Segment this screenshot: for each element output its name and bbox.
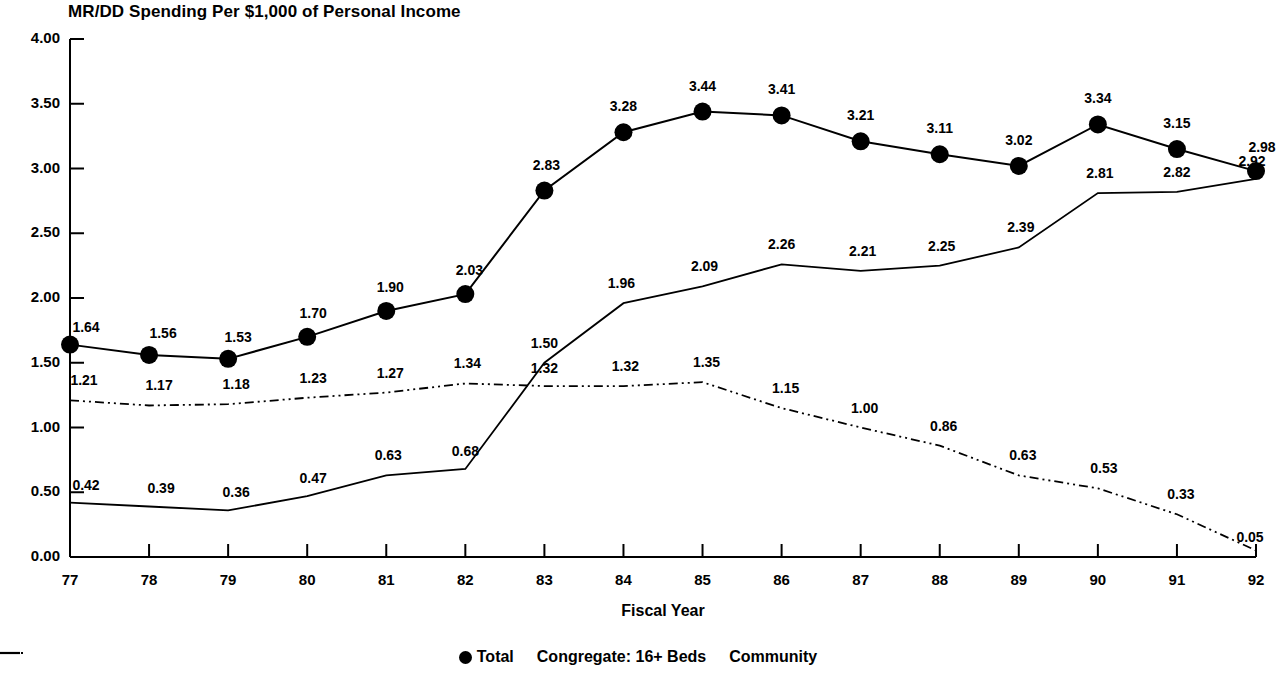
data-point-label: 1.56 xyxy=(141,325,185,341)
y-axis-tick-label: 3.00 xyxy=(2,159,60,176)
data-point-label: 2.25 xyxy=(920,238,964,254)
data-point-marker xyxy=(298,328,316,346)
data-point-label: 1.32 xyxy=(603,358,647,374)
data-point-marker xyxy=(456,285,474,303)
x-axis-tick-label: 77 xyxy=(50,571,90,588)
data-point-label: 0.42 xyxy=(64,477,108,493)
legend-item-label: Congregate: 16+ Beds xyxy=(537,648,706,666)
x-axis-tick-label: 81 xyxy=(366,571,406,588)
data-point-label: 3.11 xyxy=(918,120,962,136)
data-point-label: 2.82 xyxy=(1155,164,1199,180)
data-point-label: 0.33 xyxy=(1159,486,1203,502)
x-axis-tick-label: 84 xyxy=(603,571,643,588)
data-point-marker xyxy=(377,302,395,320)
data-point-label: 0.39 xyxy=(139,480,183,496)
data-point-label: 1.53 xyxy=(216,329,260,345)
data-point-label: 1.35 xyxy=(685,354,729,370)
x-axis-tick-label: 92 xyxy=(1236,571,1276,588)
data-point-marker xyxy=(773,106,791,124)
data-point-label: 0.86 xyxy=(922,418,966,434)
legend-item-community[interactable]: Community xyxy=(724,648,817,666)
data-point-label: 0.53 xyxy=(1082,460,1126,476)
data-point-label: 0.05 xyxy=(1228,529,1272,545)
data-point-label: 1.32 xyxy=(522,360,566,376)
x-axis-tick-label: 86 xyxy=(762,571,802,588)
y-axis-tick-label: 2.50 xyxy=(2,223,60,240)
data-point-label: 3.02 xyxy=(997,132,1041,148)
data-point-label: 1.15 xyxy=(764,380,808,396)
x-axis-tick-label: 90 xyxy=(1078,571,1118,588)
data-point-label: 3.15 xyxy=(1155,115,1199,131)
x-axis-tick-label: 79 xyxy=(208,571,248,588)
legend-item-label: Community xyxy=(729,648,817,666)
data-point-label: 1.34 xyxy=(445,355,489,371)
x-axis-tick-label: 78 xyxy=(129,571,169,588)
data-point-label: 2.21 xyxy=(841,243,885,259)
chart-legend: TotalCongregate: 16+ BedsCommunity xyxy=(0,648,1276,666)
legend-item-label: Total xyxy=(477,648,514,666)
data-point-label: 1.21 xyxy=(62,372,106,388)
data-point-label: 3.44 xyxy=(681,78,725,94)
data-point-marker xyxy=(535,182,553,200)
data-point-marker xyxy=(219,350,237,368)
x-axis-tick-label: 87 xyxy=(841,571,881,588)
data-point-label: 3.34 xyxy=(1076,90,1120,106)
data-point-label: 1.50 xyxy=(522,335,566,351)
chart-container: MR/DD Spending Per $1,000 of Personal In… xyxy=(0,0,1276,677)
x-axis-tick-label: 83 xyxy=(524,571,564,588)
data-point-label: 3.41 xyxy=(760,81,804,97)
x-axis-tick-label: 91 xyxy=(1157,571,1197,588)
data-point-label: 1.90 xyxy=(368,279,412,295)
y-axis-tick-label: 3.50 xyxy=(2,94,60,111)
data-point-label: 0.68 xyxy=(443,443,487,459)
data-point-label: 2.39 xyxy=(999,219,1043,235)
data-point-label: 2.83 xyxy=(524,157,568,173)
data-point-label: 0.63 xyxy=(1001,447,1045,463)
data-point-label: 0.63 xyxy=(366,447,410,463)
data-point-marker xyxy=(1168,140,1186,158)
data-point-label: 1.27 xyxy=(368,365,412,381)
data-point-marker xyxy=(694,103,712,121)
data-point-label: 2.09 xyxy=(683,258,727,274)
x-axis-tick-label: 89 xyxy=(999,571,1039,588)
legend-filled-circle-icon xyxy=(459,651,472,664)
data-point-label: 2.92 xyxy=(1230,153,1274,169)
data-point-label: 1.18 xyxy=(214,376,258,392)
data-point-label: 0.47 xyxy=(291,470,335,486)
series-line-total xyxy=(70,112,1256,359)
data-point-label: 1.17 xyxy=(137,377,181,393)
data-point-label: 1.64 xyxy=(64,319,108,335)
data-point-marker xyxy=(1010,157,1028,175)
y-axis-tick-label: 1.50 xyxy=(2,353,60,370)
y-axis-tick-label: 0.50 xyxy=(2,482,60,499)
data-point-label: 3.28 xyxy=(601,98,645,114)
y-axis-tick-label: 0.00 xyxy=(2,547,60,564)
data-point-marker xyxy=(1089,115,1107,133)
data-point-label: 0.36 xyxy=(214,484,258,500)
data-point-marker xyxy=(852,132,870,150)
data-point-marker xyxy=(614,123,632,141)
data-point-label: 2.81 xyxy=(1078,165,1122,181)
data-point-label: 1.23 xyxy=(291,370,335,386)
data-point-label: 1.96 xyxy=(599,275,643,291)
data-point-label: 1.70 xyxy=(291,305,335,321)
y-axis-tick-label: 1.00 xyxy=(2,418,60,435)
y-axis-tick-label: 4.00 xyxy=(2,29,60,46)
data-point-marker xyxy=(140,346,158,364)
x-axis-tick-label: 85 xyxy=(683,571,723,588)
legend-item-total[interactable]: Total xyxy=(459,648,514,666)
data-point-label: 2.26 xyxy=(760,236,804,252)
chart-axes xyxy=(70,39,1256,557)
data-point-label: 1.00 xyxy=(843,400,887,416)
x-axis-title: Fiscal Year xyxy=(50,602,1276,620)
y-axis-tick-label: 2.00 xyxy=(2,288,60,305)
series-line-congregate-16-beds xyxy=(70,382,1256,550)
x-axis-tick-label: 88 xyxy=(920,571,960,588)
x-axis-tick-label: 80 xyxy=(287,571,327,588)
data-point-label: 2.03 xyxy=(447,262,491,278)
data-point-label: 3.21 xyxy=(839,107,883,123)
legend-item-congregate-16-beds[interactable]: Congregate: 16+ Beds xyxy=(532,648,706,666)
data-point-marker xyxy=(931,145,949,163)
data-point-marker xyxy=(61,336,79,354)
x-axis-tick-label: 82 xyxy=(445,571,485,588)
